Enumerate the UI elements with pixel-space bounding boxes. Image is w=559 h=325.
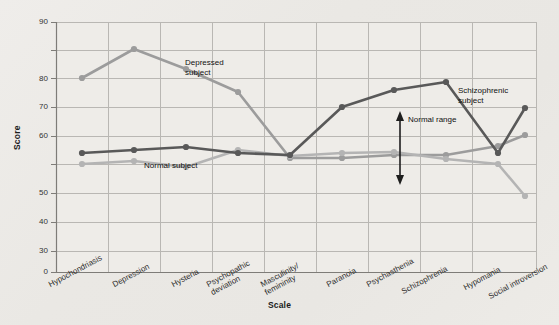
y-tick-60: 60 — [22, 131, 48, 140]
y-tick-marks — [51, 23, 56, 273]
depressed-subject-line1: Depressed — [185, 58, 224, 67]
x-axis-title: Scale — [0, 300, 559, 310]
plot-panel — [56, 22, 536, 272]
depressed-subject-label: Depressed subject — [185, 58, 224, 78]
normal-subject-label: Normal subject — [144, 161, 197, 171]
y-tick-90: 90 — [22, 17, 48, 26]
y-axis-title: Score — [12, 125, 22, 150]
schizophrenic-subject-line1: Schizophrenic — [458, 86, 508, 95]
y-tick-80: 80 — [22, 74, 48, 83]
y-tick-40: 40 — [22, 217, 48, 226]
chart-figure: Score Scale 90 80 70 60 50 40 30 0 Hypoc… — [0, 0, 559, 325]
y-tick-0: 0 — [22, 267, 48, 276]
normal-range-label: Normal range — [408, 115, 456, 125]
y-tick-30: 30 — [22, 246, 48, 255]
schizophrenic-subject-label: Schizophrenic subject — [458, 86, 508, 106]
plot-area: Score Scale 90 80 70 60 50 40 30 0 Hypoc… — [0, 0, 559, 325]
schizophrenic-subject-line2: subject — [458, 96, 483, 105]
y-tick-50: 50 — [22, 188, 48, 197]
depressed-subject-line2: subject — [185, 68, 210, 77]
y-tick-70: 70 — [22, 102, 48, 111]
